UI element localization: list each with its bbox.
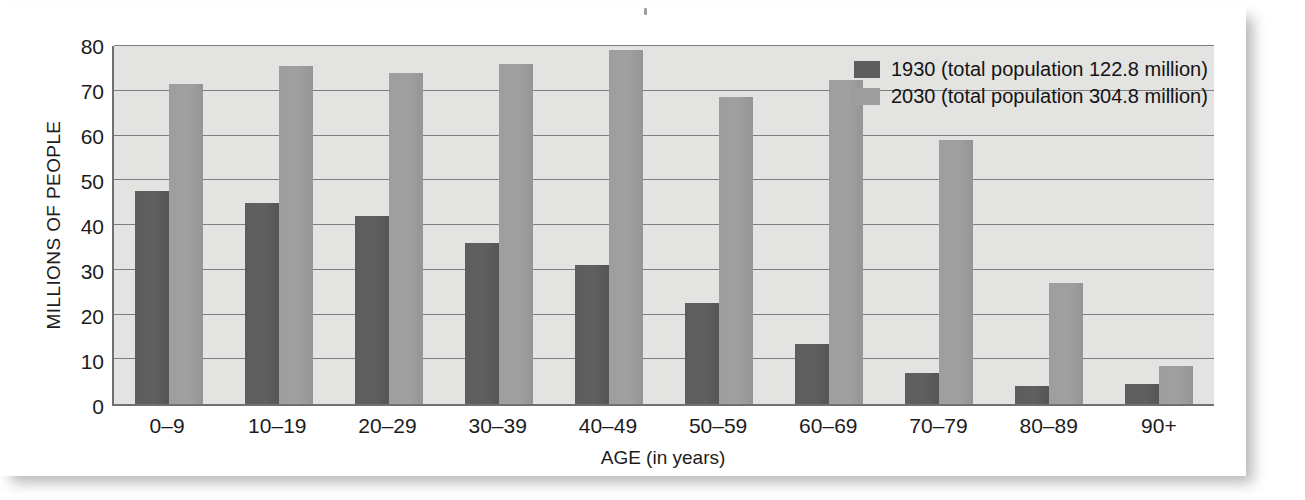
- bar-group: [114, 46, 224, 404]
- bar-2030-90+: [1159, 366, 1193, 404]
- scan-speck-artifact: [644, 8, 647, 15]
- y-tick-label: 30: [81, 261, 104, 282]
- bar-1930-0–9: [135, 191, 169, 404]
- chart-page: MILLIONS OF PEOPLE 01020304050607080 193…: [0, 0, 1305, 500]
- bar-2030-10–19: [279, 66, 313, 404]
- x-tick-label: 70–79: [883, 414, 993, 438]
- legend-swatch-icon: [854, 88, 880, 105]
- y-tick-label: 70: [81, 81, 104, 102]
- y-tick-label: 10: [81, 351, 104, 372]
- bar-1930-70–79: [905, 373, 939, 404]
- legend-item: 2030 (total population 304.8 million): [854, 83, 1208, 110]
- bar-2030-30–39: [499, 64, 533, 404]
- bar-2030-40–49: [609, 50, 643, 404]
- bar-1930-20–29: [355, 216, 389, 404]
- x-axis-title: AGE (in years): [112, 447, 1214, 469]
- x-tick-label: 40–49: [553, 414, 663, 438]
- x-tick-label: 30–39: [443, 414, 553, 438]
- chart-legend: 1930 (total population 122.8 million)203…: [848, 53, 1214, 113]
- bar-1930-50–59: [685, 303, 719, 404]
- x-axis-tick-labels: 0–910–1920–2930–3940–4950–5960–6970–7980…: [112, 414, 1214, 438]
- bar-2030-20–29: [389, 73, 423, 404]
- y-axis-tick-labels: 01020304050607080: [58, 46, 104, 406]
- x-tick-label: 10–19: [222, 414, 332, 438]
- y-tick-label: 50: [81, 171, 104, 192]
- legend-item-label: 2030 (total population 304.8 million): [891, 85, 1208, 108]
- bar-1930-10–19: [245, 203, 279, 404]
- bar-2030-70–79: [939, 140, 973, 404]
- bar-group: [334, 46, 444, 404]
- x-tick-label: 80–89: [994, 414, 1104, 438]
- bar-group: [664, 46, 774, 404]
- bar-1930-40–49: [575, 265, 609, 404]
- bar-2030-80–89: [1049, 283, 1083, 404]
- bar-1930-80–89: [1015, 386, 1049, 404]
- bar-group: [554, 46, 664, 404]
- legend-swatch-icon: [854, 61, 880, 78]
- bar-1930-30–39: [465, 243, 499, 404]
- legend-item: 1930 (total population 122.8 million): [854, 56, 1208, 83]
- legend-item-label: 1930 (total population 122.8 million): [891, 58, 1208, 81]
- x-tick-label: 0–9: [112, 414, 222, 438]
- bar-1930-60–69: [795, 344, 829, 404]
- bar-1930-90+: [1125, 384, 1159, 404]
- bar-2030-60–69: [829, 80, 863, 404]
- y-tick-label: 80: [81, 36, 104, 57]
- x-tick-label: 50–59: [663, 414, 773, 438]
- x-tick-label: 20–29: [332, 414, 442, 438]
- scanned-page-card: MILLIONS OF PEOPLE 01020304050607080 193…: [0, 6, 1246, 476]
- x-tick-label: 60–69: [773, 414, 883, 438]
- x-tick-label: 90+: [1104, 414, 1214, 438]
- bar-2030-0–9: [169, 84, 203, 404]
- y-tick-label: 60: [81, 126, 104, 147]
- bar-group: [224, 46, 334, 404]
- bar-chart-figure: MILLIONS OF PEOPLE 01020304050607080 193…: [0, 6, 1246, 476]
- y-tick-label: 0: [92, 396, 104, 417]
- bar-2030-50–59: [719, 97, 753, 404]
- y-tick-label: 20: [81, 306, 104, 327]
- bar-group: [444, 46, 554, 404]
- y-tick-label: 40: [81, 216, 104, 237]
